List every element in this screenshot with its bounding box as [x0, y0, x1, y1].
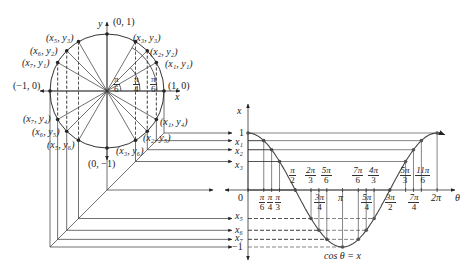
- tick-pi-label: π: [338, 193, 343, 203]
- unit-circle-cosine-diagram: y (0, 1) (x₃, y₃) (x₂, y₂) (x₁, y₁) (1, …: [0, 0, 474, 270]
- point-p5-label: (x₅, y₃): [46, 33, 74, 43]
- point-p3b-label: (x₃, y₆): [116, 146, 144, 156]
- point-p1-label: (x₁, y₁): [165, 59, 193, 69]
- tick-label-below: π6: [259, 193, 266, 212]
- point-p7-label: (x₇, y₁): [22, 58, 50, 68]
- tick-label-below: π3: [275, 193, 282, 212]
- point-left-label: (−1, 0): [13, 81, 40, 91]
- tick-label-above: 5π3: [400, 166, 411, 185]
- curve-point: [357, 238, 361, 242]
- angle-label-pi-4: π4: [133, 75, 140, 94]
- level-neg1-label: −1: [232, 242, 243, 252]
- point-top-label: (0, 1): [113, 17, 135, 27]
- curve-point: [364, 229, 368, 233]
- level-x3-label: x₃: [235, 160, 243, 170]
- tick-label-above: 11π6: [415, 166, 430, 185]
- angle-label-pi-6-b: π6: [150, 75, 157, 94]
- level-x2-label: x₂: [235, 146, 243, 156]
- tick-label-below: π4: [267, 193, 274, 212]
- tick-label-above: 5π6: [321, 166, 332, 185]
- point-p2-label: (x₂, y₂): [150, 47, 178, 57]
- tick-label-above: π2: [289, 166, 296, 185]
- curve-point: [420, 139, 424, 143]
- curve-point: [412, 148, 416, 152]
- circle-x-axis-label: x: [175, 92, 179, 102]
- point-p5b-label: (x₅, y₆): [47, 140, 75, 150]
- tick-label-below: 3π4: [314, 193, 325, 212]
- point-right-label: (1, 0): [168, 81, 190, 91]
- point-p1b-label: (x₁, y₄): [160, 117, 188, 127]
- angle-label-pi-6-a: π6: [113, 75, 120, 94]
- tick-label-below: 5π4: [361, 193, 372, 212]
- level-x5-label: x₅: [235, 211, 243, 221]
- point-p2b-label: (x₂, y₅): [143, 133, 171, 143]
- point-p7b-label: (x₇, y₄): [23, 114, 51, 124]
- point-bottom-label: (0, −1): [88, 159, 115, 169]
- origin-label: 0: [238, 193, 243, 203]
- curve-label: cos θ = x: [324, 251, 361, 261]
- curve-point: [341, 245, 345, 249]
- point-p6b-label: (x₆, y₅): [32, 127, 60, 137]
- tick-label-above: 7π6: [352, 166, 363, 185]
- curve-point: [435, 131, 439, 135]
- tick-2pi-label: 2π: [431, 193, 441, 203]
- tick-label-above: 4π3: [368, 166, 379, 185]
- graph-vertical-axis-label: x: [237, 106, 241, 116]
- circle-point: [105, 32, 109, 36]
- tick-label-below: 3π2: [385, 193, 396, 212]
- graph-theta-axis-label: θ: [455, 193, 460, 203]
- point-p6-label: (x₆, y₂): [30, 46, 58, 56]
- curve-point: [404, 160, 408, 164]
- curve-point: [372, 217, 376, 221]
- point-p3-label: (x₃, y₃): [133, 33, 161, 43]
- tick-label-above: 2π3: [305, 166, 316, 185]
- circle-y-axis-label: y: [98, 19, 102, 29]
- tick-label-below: 7π4: [408, 193, 419, 212]
